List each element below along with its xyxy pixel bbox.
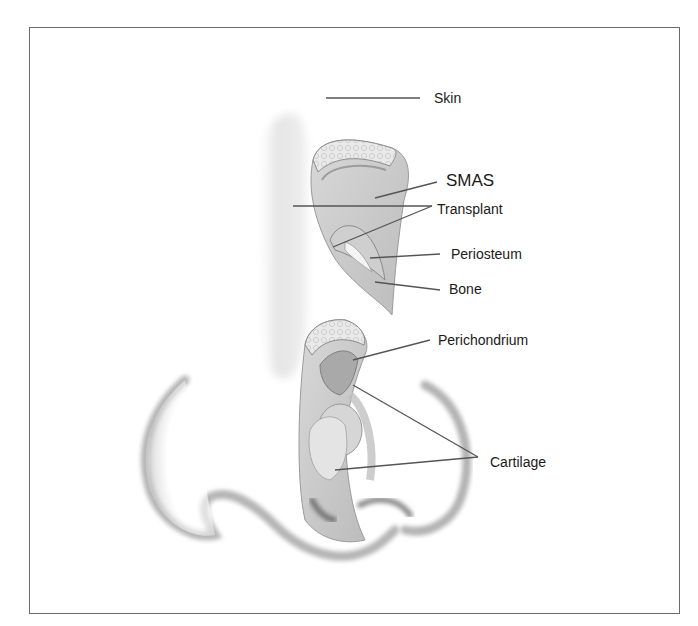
lower-cutaway	[299, 320, 372, 542]
label-periosteum: Periosteum	[451, 247, 522, 261]
nose-anatomy-illustration	[0, 0, 698, 626]
leader-line-cartilage	[335, 457, 478, 470]
label-skin: Skin	[434, 91, 461, 105]
upper-cutaway	[311, 140, 408, 315]
dorsum-shade	[257, 113, 315, 378]
right-ala	[360, 385, 467, 531]
label-perichondrium: Perichondrium	[438, 333, 528, 347]
label-transplant: Transplant	[437, 202, 503, 216]
label-bone: Bone	[449, 282, 482, 296]
label-smas: SMAS	[446, 172, 494, 189]
label-cartilage: Cartilage	[490, 455, 546, 469]
